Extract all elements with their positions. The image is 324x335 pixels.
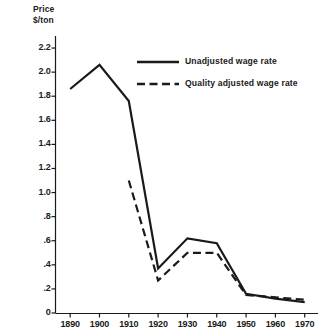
x-tick-label: 1970 [288, 319, 322, 329]
y-tick-label: .2 [25, 283, 51, 293]
y-tick-label: 2.0 [25, 66, 51, 76]
y-tick-label: 1.2 [25, 162, 51, 172]
chart-figure: Price$/ton 2.22.01.81.61.41.21.0.8.6.4.2… [0, 0, 324, 335]
y-tick-label: 1.4 [25, 138, 51, 148]
y-tick-label: 0 [25, 307, 51, 317]
y-tick-label: 2.2 [25, 42, 51, 52]
y-tick-label: 1.8 [25, 90, 51, 100]
legend-label-0: Unadjusted wage rate [185, 56, 277, 66]
series-line-1 [129, 181, 305, 300]
y-tick-label: .6 [25, 235, 51, 245]
y-tick-label: 1.0 [25, 187, 51, 197]
y-tick-label: .8 [25, 211, 51, 221]
y-tick-label: 1.6 [25, 114, 51, 124]
data-series-group [70, 65, 305, 302]
series-line-0 [70, 65, 305, 302]
y-tick-label: .4 [25, 259, 51, 269]
legend-label-1: Quality adjusted wage rate [185, 78, 298, 88]
legend-swatches [137, 62, 179, 84]
